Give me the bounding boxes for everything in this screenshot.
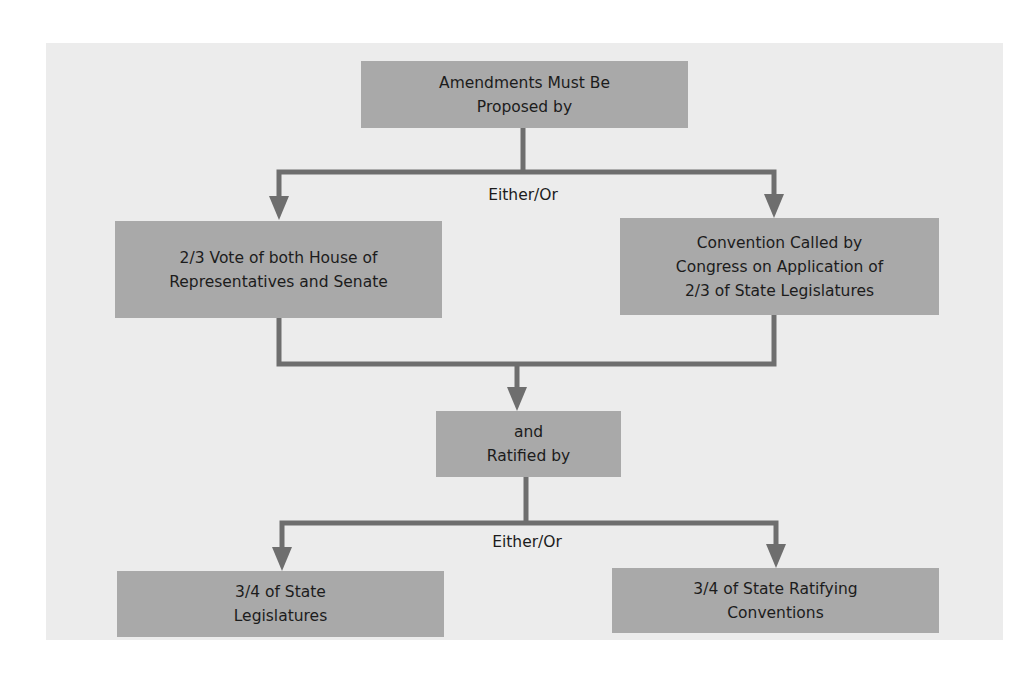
arrow-head-icon [764,194,784,218]
node-state-legislatures: 3/4 of State Legislatures [117,571,444,637]
arrow-head-icon [269,196,289,220]
node-label: and Ratified by [487,420,570,468]
node-state-conventions: 3/4 of State Ratifying Conventions [612,568,939,633]
node-label: 2/3 Vote of both House of Representative… [169,246,388,294]
arrow-head-icon [507,387,527,411]
node-congress-vote: 2/3 Vote of both House of Representative… [115,221,442,318]
node-ratified: and Ratified by [436,411,621,477]
arrow-head-icon [272,547,292,571]
edge-label-either-or: Either/Or [492,533,562,551]
node-label: Convention Called by Congress on Applica… [676,231,883,303]
edge-label-either-or: Either/Or [488,186,558,204]
connector-merge [279,315,774,364]
node-proposed: Amendments Must Be Proposed by [361,61,688,128]
node-label: 3/4 of State Legislatures [234,580,327,628]
node-label: Amendments Must Be Proposed by [439,71,610,119]
node-convention: Convention Called by Congress on Applica… [620,218,939,315]
node-label: 3/4 of State Ratifying Conventions [693,577,857,625]
arrow-head-icon [766,544,786,568]
